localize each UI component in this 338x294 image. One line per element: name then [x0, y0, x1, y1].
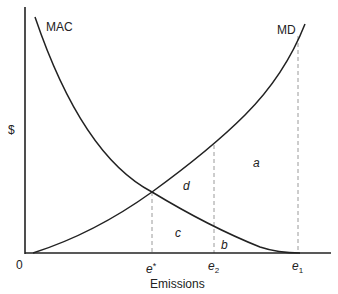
md-curve-label: MD	[277, 24, 296, 36]
region-a-label: a	[253, 157, 260, 169]
diagram-graphic	[0, 0, 338, 294]
region-c-label: c	[175, 227, 181, 239]
mac-curve	[35, 17, 300, 253]
md-curve	[33, 24, 305, 253]
tick-e1-base: e	[292, 259, 299, 273]
tick-e1-mark: 1	[299, 266, 303, 275]
region-b-label: b	[221, 239, 228, 251]
pollution-control-diagram: MAC MD $ 0 Emissions e* e2 e1 a b c d	[0, 0, 338, 294]
tick-e-star-base: e	[146, 262, 153, 276]
tick-e-star: e*	[146, 260, 156, 275]
tick-e-star-mark: *	[153, 261, 157, 271]
tick-e2-base: e	[208, 259, 215, 273]
tick-e2: e2	[208, 260, 219, 277]
y-axis-label: $	[8, 124, 15, 136]
mac-curve-label: MAC	[46, 21, 73, 33]
origin-label: 0	[16, 259, 23, 271]
tick-e2-mark: 2	[215, 266, 219, 275]
x-axis-label: Emissions	[150, 278, 205, 290]
region-d-label: d	[183, 180, 190, 192]
tick-e1: e1	[292, 260, 303, 277]
